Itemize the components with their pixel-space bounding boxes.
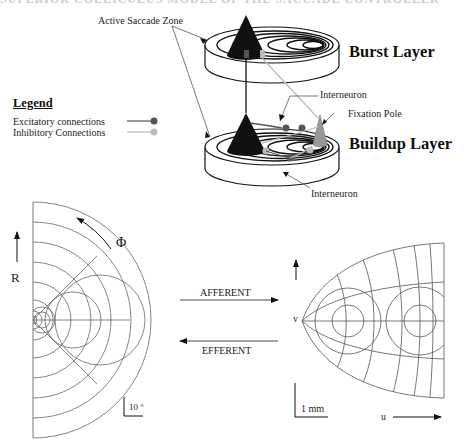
label-degree-scale: 10 ° — [129, 403, 144, 412]
label-u-axis: u — [381, 412, 386, 422]
label-afferent: AFFERENT — [200, 288, 251, 298]
label-v-axis: v — [293, 314, 298, 324]
label-r-axis: R — [11, 271, 20, 284]
label-phi-axis: Φ — [116, 236, 126, 250]
label-burst-layer: Burst Layer — [349, 44, 435, 61]
legend-item-excitatory: Excitatory connections — [13, 116, 105, 127]
label-interneuron-lower: Interneuron — [311, 189, 358, 199]
diagram-canvas — [0, 0, 469, 442]
label-fixation-pole: Fixation Pole — [348, 109, 402, 119]
legend-item-inhibitory: Inhibitory Connections — [13, 127, 106, 138]
label-efferent: EFFERENT — [202, 346, 251, 356]
burst-layer-disk — [205, 15, 339, 83]
label-active-saccade-zone: Active Saccade Zone — [98, 16, 183, 26]
label-mm-scale: 1 mm — [301, 404, 324, 414]
buildup-layer-disk — [205, 113, 339, 186]
legend-title: Legend — [13, 96, 53, 111]
legend-swatches — [127, 118, 158, 136]
phi-arc-arrow — [77, 218, 111, 249]
fixation-pole-cone — [313, 115, 327, 147]
collicular-map-grid — [302, 243, 454, 398]
label-buildup-layer: Buildup Layer — [349, 136, 452, 153]
label-interneuron-upper: Interneuron — [320, 90, 367, 100]
